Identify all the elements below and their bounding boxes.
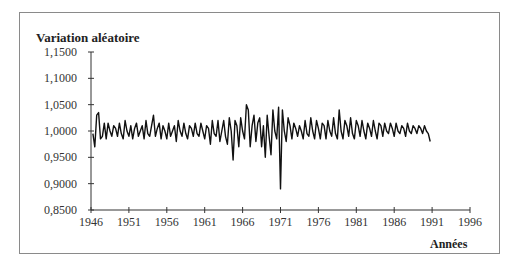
x-tick-label: 1966	[231, 215, 255, 229]
x-tick-label: 1951	[117, 215, 141, 229]
x-tick-label: 1986	[382, 215, 406, 229]
x-tick-label: 1991	[420, 215, 444, 229]
x-tick-label: 1946	[79, 215, 103, 229]
x-tick-label: 1961	[193, 215, 217, 229]
line-chart: 1,15001,10001,05001,00000,95000,90000,85…	[0, 0, 512, 268]
y-tick-label: 0,9000	[44, 177, 77, 191]
x-tick-label: 1996	[458, 215, 482, 229]
y-tick-label: 1,0500	[44, 98, 77, 112]
y-tick-label: 1,0000	[44, 124, 77, 138]
x-tick-label: 1981	[344, 215, 368, 229]
x-tick-label: 1956	[155, 215, 179, 229]
y-tick-label: 1,1500	[44, 45, 77, 59]
y-tick-label: 1,1000	[44, 71, 77, 85]
y-tick-label: 0,8500	[44, 203, 77, 217]
x-tick-label: 1976	[306, 215, 330, 229]
y-tick-labels: 1,15001,10001,05001,00000,95000,90000,85…	[44, 45, 77, 217]
y-tick-label: 0,9500	[44, 150, 77, 164]
x-tick-labels: 1946195119561961196619711976198119861991…	[79, 215, 482, 229]
x-tick-label: 1971	[269, 215, 293, 229]
series-line	[93, 105, 430, 189]
